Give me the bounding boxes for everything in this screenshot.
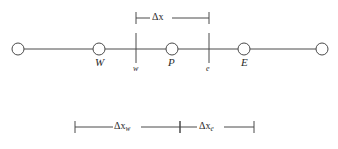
dim-label-delta-x: Δx — [152, 12, 163, 24]
node-label-P: P — [168, 57, 175, 68]
node-E-circle — [238, 43, 250, 55]
node-P-circle — [166, 43, 178, 55]
dim-delta-xe-group — [180, 120, 254, 134]
control-volume-diagram: W P E w e Δx Δxw Δxe — [0, 0, 338, 149]
node-far-east-circle — [316, 43, 328, 55]
node-W-circle — [93, 43, 105, 55]
dim-delta-x-group — [136, 11, 209, 25]
dim-label-delta-xw: Δxw — [114, 121, 130, 133]
face-label-e: e — [206, 65, 210, 73]
diagram-canvas — [0, 0, 338, 149]
dim-label-delta-xw-base: Δx — [114, 120, 125, 131]
face-label-w: w — [133, 65, 138, 73]
node-label-W: W — [95, 57, 104, 68]
node-far-west-circle — [12, 43, 24, 55]
dim-label-delta-xe: Δxe — [199, 121, 214, 133]
dim-label-delta-x-base: Δx — [152, 11, 163, 22]
dim-label-delta-xe-base: Δx — [199, 120, 210, 131]
dim-label-delta-xw-subscript: w — [125, 125, 130, 133]
dim-label-delta-xe-subscript: e — [210, 125, 213, 133]
node-label-E: E — [241, 57, 248, 68]
